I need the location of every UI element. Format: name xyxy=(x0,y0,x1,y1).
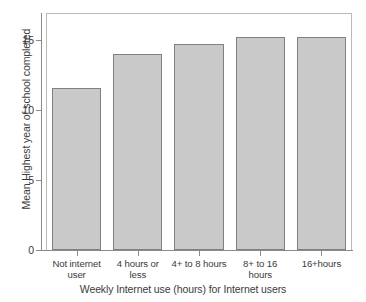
bar-chart-figure: 051015 Not internetuser4 hours orless4+ … xyxy=(0,0,366,302)
x-axis-line xyxy=(41,250,353,251)
bar xyxy=(236,37,285,250)
y-axis-line xyxy=(41,13,42,251)
y-tick-mark xyxy=(36,40,41,41)
bar xyxy=(113,54,162,250)
y-tick-mark xyxy=(36,110,41,111)
bar xyxy=(174,44,223,250)
y-tick-mark xyxy=(36,180,41,181)
bars-container xyxy=(46,13,352,250)
x-tick-label-line: hours xyxy=(220,269,300,280)
y-tick-label: 0 xyxy=(8,245,34,256)
x-tick-mark xyxy=(321,251,322,256)
x-tick-label-line: 16+hours xyxy=(281,258,361,269)
bar xyxy=(52,88,101,250)
x-tick-mark xyxy=(260,251,261,256)
x-tick-mark xyxy=(138,251,139,256)
y-tick-mark xyxy=(36,250,41,251)
x-tick-label-line: less xyxy=(98,269,178,280)
x-axis-title: Weekly Internet use (hours) for Internet… xyxy=(0,283,366,296)
bar xyxy=(297,37,346,250)
x-tick-mark xyxy=(77,251,78,256)
x-tick-mark xyxy=(199,251,200,256)
y-axis-title: Mean Highest year of school completed xyxy=(18,0,34,244)
x-tick-label: 16+hours xyxy=(281,258,361,269)
